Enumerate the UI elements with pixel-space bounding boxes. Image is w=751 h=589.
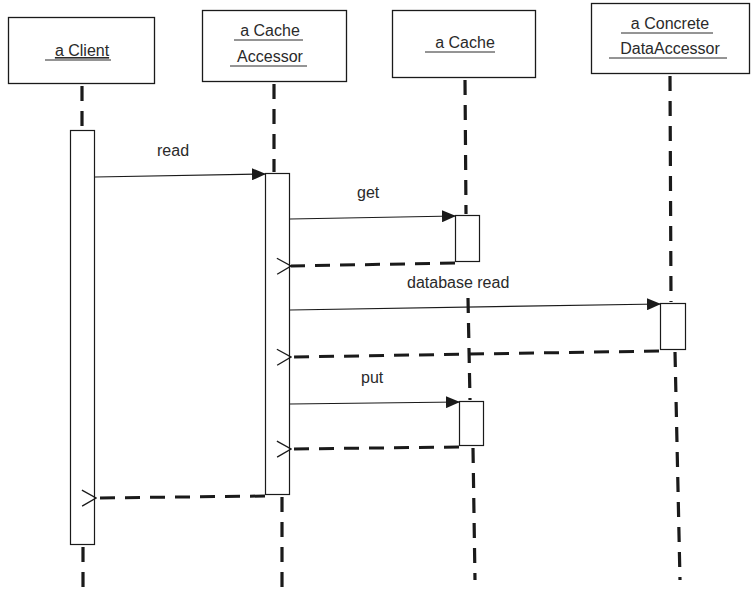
object-cache: a Cache	[393, 11, 536, 78]
activation-cache-accessor	[266, 174, 290, 495]
message-label: database read	[407, 274, 509, 291]
call-arrow	[290, 216, 455, 219]
message-database-read: database read	[290, 274, 660, 310]
lifeline-data-accessor-bottom	[675, 352, 680, 580]
message-put-return	[291, 447, 459, 449]
sequence-diagram: a Client a Cache Accessor a Cache a Conc…	[0, 0, 751, 589]
object-box	[592, 4, 750, 74]
message-read: read	[95, 142, 265, 177]
activation-client	[71, 131, 95, 545]
object-label-line-2: DataAccessor	[620, 40, 720, 57]
lifeline-cache-bottom	[473, 448, 475, 580]
object-label-line-2: Accessor	[237, 48, 303, 65]
lifeline-data-accessor-top	[670, 76, 671, 302]
call-arrow	[95, 174, 265, 177]
message-label: read	[157, 142, 189, 159]
message-database-read-return	[291, 351, 659, 357]
message-get-return	[291, 263, 455, 266]
activation-cache-get	[456, 216, 480, 262]
return-arrow	[96, 496, 265, 498]
object-label-line-1: a Concrete	[631, 15, 709, 32]
message-label: get	[357, 184, 380, 201]
message-label: put	[361, 369, 384, 386]
object-label: a Cache	[435, 34, 495, 51]
message-read-return	[96, 496, 265, 498]
object-label: a Client	[55, 42, 110, 59]
object-client: a Client	[9, 18, 155, 84]
lifeline-cache-mid	[468, 298, 470, 400]
return-arrow	[291, 263, 455, 266]
call-arrow	[290, 402, 459, 404]
lifeline-cache-top	[465, 80, 466, 214]
object-cache-accessor: a Cache Accessor	[203, 11, 347, 82]
return-arrow	[291, 447, 459, 449]
message-get: get	[290, 184, 455, 219]
return-arrow	[291, 351, 659, 357]
object-data-accessor: a Concrete DataAccessor	[592, 4, 750, 74]
activation-data-accessor	[661, 304, 686, 350]
call-arrow	[290, 304, 660, 310]
object-label-line-1: a Cache	[240, 22, 300, 39]
activation-cache-put	[460, 402, 484, 446]
message-put: put	[290, 369, 459, 404]
